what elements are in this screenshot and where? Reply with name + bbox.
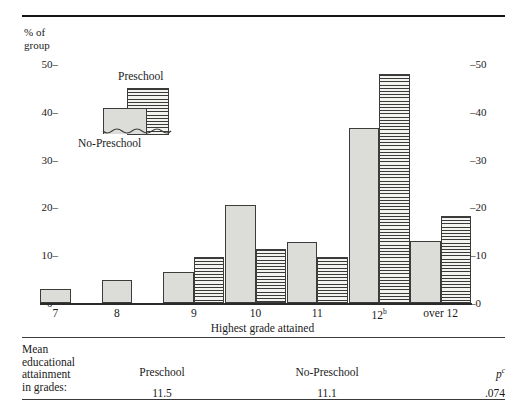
bar-no-preschool-grade-8 (102, 280, 133, 303)
table-header-p-value: pc (437, 366, 505, 380)
bar-no-preschool-grade-12 (349, 128, 380, 303)
table-value-no-preschool: 11.1 (267, 387, 387, 399)
table-stub-label: Mean educational attainment in grades: (22, 343, 117, 393)
y-tick-left-50: 50– (22, 58, 58, 70)
table-value-preschool: 11.5 (107, 387, 217, 399)
legend-wavy-edge-icon (102, 128, 172, 137)
y-tick-right-40: –40 (470, 106, 506, 118)
table-header-no-preschool: No-Preschool (267, 366, 387, 378)
x-tick-label-10: 10 (226, 307, 286, 319)
y-tick-right-0: –0 (470, 297, 506, 309)
table-value-p: .074 (437, 387, 505, 399)
y-tick-right-10: –10 (470, 249, 506, 261)
y-tick-right-50: –50 (470, 58, 506, 70)
x-tick-label-8: 8 (87, 307, 147, 319)
x-tick-label-11: 11 (287, 307, 347, 319)
x-axis-baseline (40, 303, 472, 305)
y-tick-right-20: –20 (470, 201, 506, 213)
top-horizontal-rule (22, 15, 505, 17)
bar-preschool-grade-over 12 (441, 216, 472, 303)
x-tick-label-9: 9 (164, 307, 224, 319)
table-header-preschool: Preschool (107, 366, 217, 378)
table-top-rule (22, 337, 505, 338)
bar-no-preschool-grade-7 (40, 289, 71, 303)
x-axis-title: Highest grade attained (0, 322, 525, 334)
y-tick-right-30: –30 (470, 154, 506, 166)
bar-preschool-grade-11 (317, 257, 348, 303)
bar-preschool-grade-10 (256, 249, 287, 303)
bar-no-preschool-grade-9 (163, 272, 194, 303)
x-tick-label-over-12: over 12 (411, 307, 471, 319)
y-tick-left-40: 40– (22, 106, 58, 118)
bar-no-preschool-grade-11 (287, 242, 318, 303)
y-tick-left-30: 30– (22, 154, 58, 166)
y-tick-left-20: 20– (22, 201, 58, 213)
bar-no-preschool-grade-over 12 (410, 241, 441, 303)
bar-preschool-grade-9 (194, 257, 225, 303)
legend-label-no-preschool: No-Preschool (78, 137, 141, 149)
legend-label-preschool: Preschool (118, 70, 163, 82)
x-tick-label-7: 7 (25, 307, 85, 319)
y-tick-left-10: 10– (22, 249, 58, 261)
y-axis-title: % of group (24, 26, 50, 51)
bar-no-preschool-grade-10 (225, 205, 256, 303)
table-bottom-rule (22, 399, 505, 400)
bar-preschool-grade-12 (379, 74, 410, 303)
x-tick-label-12: 12b (349, 307, 409, 321)
